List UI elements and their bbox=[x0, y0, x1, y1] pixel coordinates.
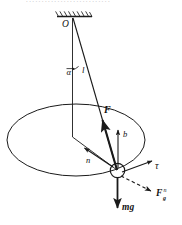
length-label: l bbox=[82, 65, 85, 75]
tangent-vector bbox=[122, 161, 152, 172]
gravity-normal-superscript: n bbox=[164, 187, 167, 193]
angle-label: α bbox=[67, 67, 72, 77]
weight-label: mg bbox=[122, 202, 134, 212]
pivot-label: O bbox=[62, 19, 69, 29]
gravity-normal-label: F g n bbox=[155, 187, 167, 201]
ceiling-hatching bbox=[56, 11, 92, 16]
tension-vector bbox=[103, 120, 118, 170]
gravity-normal-vector bbox=[121, 176, 151, 191]
binormal-label: b bbox=[123, 129, 127, 139]
diagram-canvas: O α l F b n τ F g n mg bbox=[0, 0, 182, 225]
conical-pendulum-diagram: O α l F b n τ F g n mg bbox=[0, 0, 182, 225]
ceiling-support bbox=[56, 11, 92, 16]
tangent-label: τ bbox=[155, 160, 159, 171]
gravity-normal-subscript: g bbox=[162, 195, 166, 201]
gravity-normal-base: F bbox=[155, 188, 163, 198]
normal-label: n bbox=[86, 155, 90, 165]
tension-label: F bbox=[103, 104, 111, 115]
